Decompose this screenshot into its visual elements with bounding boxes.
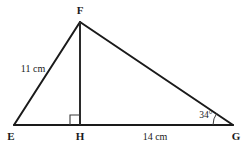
vertex-label-H: H — [76, 130, 85, 142]
vertex-label-G: G — [232, 130, 241, 142]
length-label-HG: 14 cm — [143, 131, 168, 142]
angle-arc-G-icon — [213, 113, 217, 125]
right-angle-marker-icon — [70, 115, 80, 125]
vertex-label-F: F — [77, 4, 84, 16]
angle-label-G: 34° — [199, 110, 213, 120]
geometry-figure: F E H G 11 cm 14 cm 34° — [0, 0, 248, 147]
vertex-label-E: E — [7, 130, 14, 142]
length-label-EF: 11 cm — [21, 63, 46, 74]
